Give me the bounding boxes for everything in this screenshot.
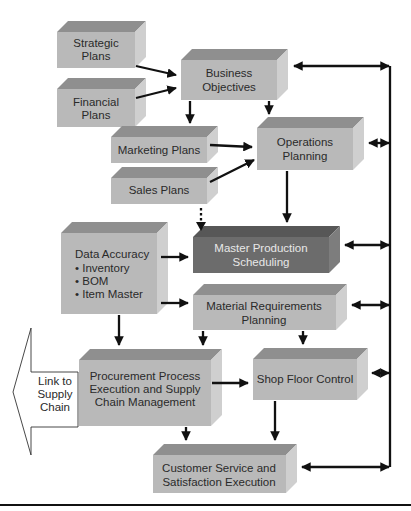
node-label: Shop Floor Control [257,373,354,385]
node-label: Scheduling [233,256,290,268]
node-label: Link to [38,375,72,387]
node-label: Financial [73,96,119,108]
node-label: Satisfaction Execution [162,476,275,488]
node-sales-plans: Sales Plans [111,167,218,204]
node-strategic-plans: Strategic Plans [57,21,146,68]
node-customer-service: Customer Service and Satisfaction Execut… [153,444,297,493]
node-label: Strategic [73,37,119,49]
node-label: Procurement Process [90,370,201,382]
node-label: Planning [283,150,328,162]
node-label: Chain Management [95,396,196,408]
node-label: Chain [40,401,70,413]
node-label: Objectives [202,81,256,93]
node-financial-plans: Financial Plans [57,78,146,127]
node-label: Plans [82,109,111,121]
node-label: • BOM [75,275,108,287]
node-label: Plans [82,50,111,62]
node-label: Marketing Plans [118,144,201,156]
node-label: Business [206,67,253,79]
node-label: Execution and Supply [89,383,200,395]
node-label: • Inventory [75,262,130,274]
node-master-production-scheduling: Master Production Scheduling [193,226,340,273]
node-shop-floor-control: Shop Floor Control [253,348,368,400]
node-label: • Item Master [75,288,143,300]
node-label: Sales Plans [129,184,190,196]
node-operations-planning: Operations Planning [257,117,364,170]
node-label: Master Production [214,242,307,254]
node-label: Data Accuracy [75,248,149,260]
erp-flow-diagram: Strategic Plans Financial Plans Business… [0,0,411,511]
node-material-requirements-planning: Material Requirements Planning [193,284,347,330]
node-label: Operations [277,136,334,148]
node-business-objectives: Business Objectives [181,49,288,100]
node-label: Material Requirements [206,300,322,312]
node-data-accuracy: Data Accuracy • Inventory • BOM • Item M… [61,222,168,314]
node-label: Supply [37,388,72,400]
node-marketing-plans: Marketing Plans [111,126,218,163]
node-label: Planning [242,314,287,326]
link-to-supply-chain-arrow: Link to Supply Chain [13,328,78,455]
node-label: Customer Service and [162,462,276,474]
node-procurement-process: Procurement Process Execution and Supply… [79,349,222,426]
